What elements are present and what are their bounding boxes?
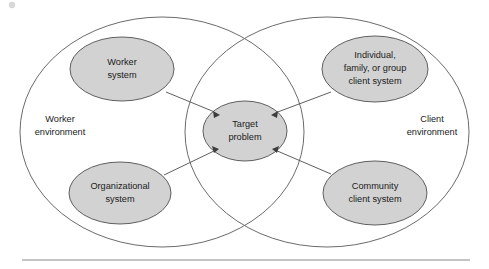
- connector-worker-system-to-target: [166, 92, 217, 113]
- individual-client-system-label-line2: family, or group: [344, 63, 407, 73]
- connector-organizational-system-to-target: [164, 150, 216, 175]
- target-problem-label-line1: Target: [232, 119, 258, 129]
- connector-individual-client-system-to-target: [275, 92, 331, 113]
- node-individual-family-group-client-system[interactable]: Individual, family, or group client syst…: [322, 36, 428, 102]
- worker-system-label-line1: Worker: [107, 57, 136, 67]
- organizational-system-ellipse: [69, 162, 171, 224]
- systems-venn-diagram: Target problem Worker system Organizatio…: [0, 0, 489, 269]
- node-worker-system[interactable]: Worker system: [70, 37, 174, 101]
- node-target-problem[interactable]: Target problem: [203, 101, 287, 161]
- diagram-root: Target problem Worker system Organizatio…: [0, 0, 489, 269]
- individual-client-system-label-line3: client system: [348, 76, 401, 86]
- worker-environment-label-line2: environment: [35, 127, 86, 137]
- worker-system-ellipse: [70, 37, 174, 101]
- client-environment-label: Client environment: [407, 114, 458, 137]
- worker-environment-label-line1: Worker: [45, 114, 74, 124]
- target-problem-ellipse: [203, 101, 287, 161]
- target-problem-label-line2: problem: [228, 132, 262, 142]
- organizational-system-label-line1: Organizational: [90, 181, 149, 191]
- individual-client-system-label-line1: Individual,: [354, 50, 395, 60]
- worker-environment-label: Worker environment: [35, 114, 86, 137]
- community-client-system-label-line1: Community: [352, 181, 399, 191]
- node-community-client-system[interactable]: Community client system: [323, 161, 427, 225]
- client-environment-label-line1: Client: [420, 114, 444, 124]
- worker-system-label-line2: system: [107, 70, 136, 80]
- client-environment-label-line2: environment: [407, 127, 458, 137]
- scan-artifact-speck: [9, 2, 15, 8]
- connector-community-client-system-to-target: [275, 150, 331, 174]
- community-client-system-label-line2: client system: [348, 194, 401, 204]
- node-organizational-system[interactable]: Organizational system: [69, 162, 171, 224]
- community-client-system-ellipse: [323, 161, 427, 225]
- organizational-system-label-line2: system: [105, 194, 134, 204]
